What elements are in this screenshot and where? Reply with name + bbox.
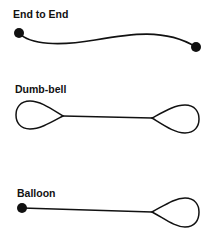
balloon-shape [17,198,199,227]
dumb-bell-linker [63,116,152,118]
end-to-end-shape [14,28,201,52]
end-dot-right-icon [191,42,201,52]
topology-diagram [0,0,212,236]
balloon-linker [22,208,152,212]
dumb-bell-shape [16,101,199,133]
end-dot-left-icon [14,28,24,38]
balloon-loop-icon [152,198,199,227]
left-loop-icon [16,101,63,129]
balloon-end-dot-icon [17,203,27,213]
right-loop-icon [152,105,199,133]
end-to-end-curve [19,33,196,47]
